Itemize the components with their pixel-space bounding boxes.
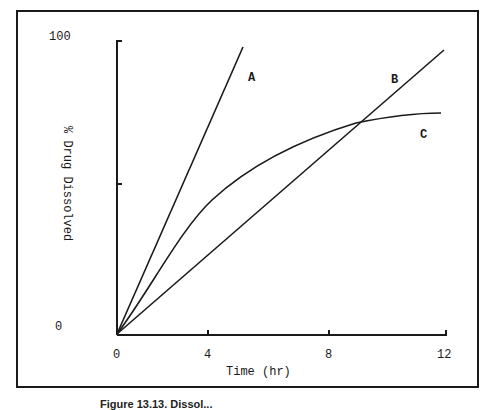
series-b-line xyxy=(117,50,444,334)
x-tick-label-12: 12 xyxy=(437,348,451,362)
y-tick-label-0: 0 xyxy=(55,320,62,334)
x-axis-title: Time (hr) xyxy=(226,365,291,379)
figure-caption: Figure 13.13. Dissol... xyxy=(100,398,213,410)
y-axis-title: % Drug Dissolved xyxy=(60,126,74,241)
y-tick-label-100: 100 xyxy=(49,30,71,44)
x-tick-label-0: 0 xyxy=(113,348,120,362)
x-tick-label-8: 8 xyxy=(325,348,332,362)
series-c-label: C xyxy=(420,128,427,142)
x-tick-label-4: 4 xyxy=(204,348,211,362)
series-a-label: A xyxy=(248,71,256,85)
series-b-label: B xyxy=(391,73,398,87)
